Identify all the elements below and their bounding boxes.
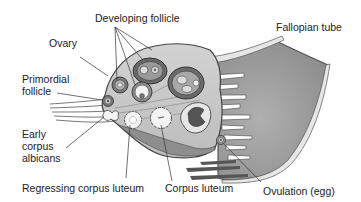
label-primordial-line1: Primordial bbox=[22, 73, 69, 85]
egg bbox=[217, 136, 226, 145]
label-early-corpus-albicans: Early corpus albicans bbox=[22, 128, 61, 164]
label-ovulation: Ovulation (egg) bbox=[263, 185, 335, 197]
label-primordial-follicle: Primordial follicle bbox=[22, 73, 69, 97]
label-developing-follicle: Developing follicle bbox=[95, 12, 180, 24]
ovary-body bbox=[102, 44, 222, 158]
regressing-corpus-luteum bbox=[125, 112, 142, 129]
label-primordial-line2: follicle bbox=[22, 85, 69, 97]
early-corpus-albicans bbox=[103, 111, 119, 121]
primordial-follicle bbox=[103, 96, 114, 107]
label-albicans-line2: corpus bbox=[22, 140, 61, 152]
label-regressing-corpus-luteum: Regressing corpus luteum bbox=[22, 182, 144, 194]
label-corpus-luteum: Corpus luteum bbox=[165, 182, 233, 194]
label-albicans-line1: Early bbox=[22, 128, 61, 140]
label-fallopian-tube: Fallopian tube bbox=[276, 21, 342, 33]
label-albicans-line3: albicans bbox=[22, 152, 61, 164]
label-ovary: Ovary bbox=[49, 37, 77, 49]
